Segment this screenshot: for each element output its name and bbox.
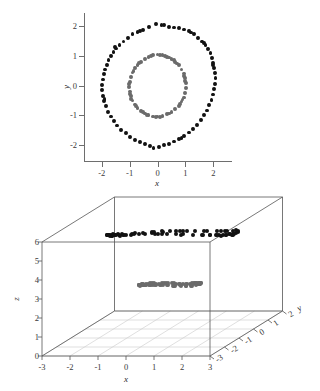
x-tick — [158, 162, 159, 167]
data-point — [107, 58, 111, 62]
data-point — [191, 127, 195, 131]
data-point — [100, 83, 104, 87]
data-point — [102, 72, 106, 76]
x-tick — [185, 162, 186, 167]
data-point — [182, 74, 186, 78]
z-tick-label: 1 — [29, 332, 39, 342]
data-point — [196, 36, 200, 40]
data-point — [109, 115, 113, 119]
data-point — [118, 43, 122, 47]
data-point — [183, 79, 187, 83]
x-tick-label: 1 — [183, 168, 187, 178]
z-axis-label-3d: z — [11, 297, 21, 301]
data-point-3d — [181, 282, 185, 286]
data-point-3d — [122, 233, 126, 237]
data-point — [162, 143, 166, 147]
data-point — [128, 135, 132, 139]
x-axis-label-3d: x — [124, 374, 128, 384]
data-point — [157, 145, 161, 149]
data-point — [182, 28, 186, 32]
x-tick-label: -1 — [126, 168, 133, 178]
x-tick — [102, 162, 103, 167]
z-tick-label: 0 — [29, 351, 39, 361]
data-point — [167, 142, 171, 146]
data-point — [154, 22, 158, 26]
data-point — [211, 93, 215, 97]
data-point — [104, 104, 108, 108]
data-point-3d — [191, 233, 195, 237]
y-axis-spine — [84, 13, 85, 162]
y-tick-label: 2 — [62, 21, 77, 31]
data-point — [137, 61, 141, 65]
data-point — [129, 75, 133, 79]
floor-gridline — [126, 311, 199, 356]
y-tick — [79, 86, 84, 87]
data-point — [148, 144, 152, 148]
data-point — [167, 112, 171, 116]
data-point — [158, 115, 162, 119]
data-point — [195, 123, 199, 127]
y-tick-label: -1 — [62, 110, 77, 120]
floor-gridline — [154, 311, 227, 356]
data-point — [158, 53, 162, 57]
data-point — [138, 29, 142, 33]
data-point — [213, 71, 217, 75]
data-point — [132, 69, 136, 73]
box-edge — [42, 197, 115, 242]
data-point — [189, 31, 193, 35]
data-point — [163, 54, 167, 58]
floor-gridline — [98, 311, 171, 356]
x-tick — [130, 162, 131, 167]
data-point — [187, 131, 191, 135]
data-point — [100, 88, 104, 92]
data-point — [211, 63, 215, 67]
data-point — [122, 40, 126, 44]
data-point — [124, 131, 128, 135]
data-point — [214, 76, 218, 80]
data-point — [172, 140, 176, 144]
y-tick-label: 1 — [62, 51, 77, 61]
x-tick-label-3d: -2 — [66, 362, 73, 372]
data-point — [103, 97, 107, 101]
data-point — [147, 25, 151, 29]
data-point — [184, 86, 188, 90]
data-point — [133, 138, 137, 142]
data-point-3d — [219, 229, 223, 233]
y-tick — [79, 56, 84, 57]
data-point — [143, 57, 147, 61]
x-tick-label: -2 — [98, 168, 105, 178]
data-point — [202, 113, 206, 117]
z-tick-label: 5 — [29, 256, 39, 266]
data-point-3d — [225, 229, 229, 233]
y-tick — [79, 145, 84, 146]
x-tick-label-3d: -1 — [94, 362, 101, 372]
data-point — [131, 32, 135, 36]
data-point — [105, 63, 109, 67]
x-tick-label-3d: -3 — [38, 362, 45, 372]
data-point — [112, 119, 116, 123]
data-point — [138, 140, 142, 144]
data-point — [160, 23, 164, 27]
x-tick — [213, 162, 214, 167]
data-point — [207, 103, 211, 107]
y-tick — [79, 26, 84, 27]
data-point — [167, 25, 171, 29]
data-point-3d — [156, 232, 160, 236]
data-point — [126, 36, 130, 40]
y-tick — [79, 115, 84, 116]
data-point — [149, 54, 153, 58]
data-point — [205, 109, 209, 113]
data-point-3d — [143, 232, 147, 236]
y-tick-label: -2 — [62, 140, 77, 150]
scatter-3d-panel: 0123456-3-2-10123-3-2-1012 x y z — [0, 196, 320, 391]
data-point — [172, 58, 176, 62]
z-tick-label: 4 — [29, 275, 39, 285]
y-axis-label: y — [61, 85, 71, 89]
x-tick-label-3d: 3 — [208, 362, 212, 372]
x-tick-label-3d: 0 — [124, 362, 128, 372]
x-axis-label: x — [155, 178, 159, 188]
data-point — [119, 128, 123, 132]
data-point — [109, 54, 113, 58]
data-point — [202, 41, 206, 45]
data-point — [181, 98, 185, 102]
